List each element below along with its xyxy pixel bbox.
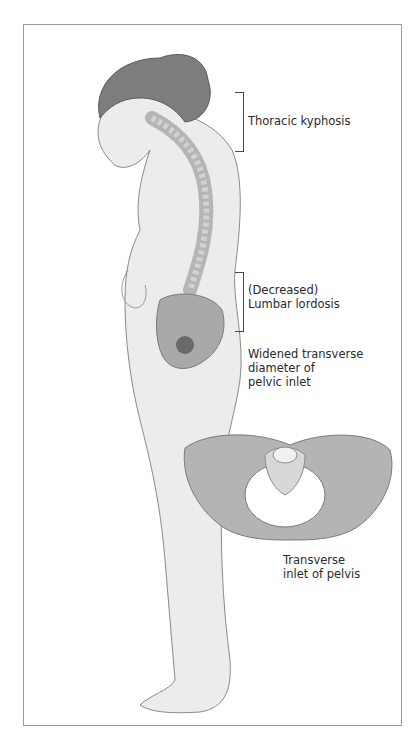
label-transverse-inlet: Transverse inlet of pelvis (283, 553, 360, 581)
lumbar-bracket (235, 272, 244, 332)
label-thoracic-kyphosis: Thoracic kyphosis (248, 114, 350, 128)
thoracic-bracket (235, 92, 244, 152)
label-pelvic-inlet: Widened transverse diameter of pelvic in… (248, 347, 363, 389)
body-silhouette (98, 94, 241, 713)
hip-socket (176, 336, 194, 354)
label-lumbar-lordosis: (Decreased) Lumbar lordosis (248, 283, 340, 311)
